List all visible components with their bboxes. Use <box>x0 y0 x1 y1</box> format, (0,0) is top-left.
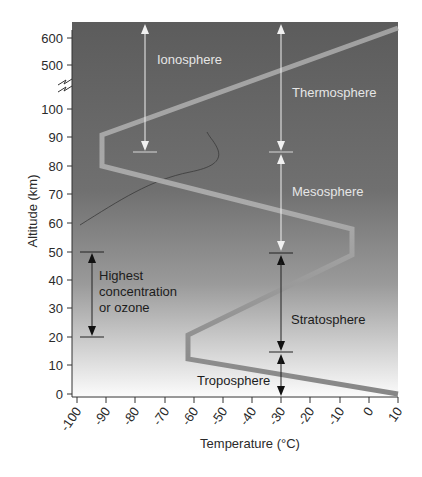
svg-text:-80: -80 <box>119 404 142 428</box>
y-axis-title: Altitude (km) <box>25 175 40 248</box>
svg-text:600: 600 <box>41 31 63 46</box>
svg-text:-70: -70 <box>149 404 172 428</box>
svg-text:-90: -90 <box>90 404 113 428</box>
svg-text:500: 500 <box>41 58 63 73</box>
svg-text:20: 20 <box>49 330 63 345</box>
y-tick-labels: 600 500 100 90 80 70 60 50 40 30 20 10 0 <box>41 31 63 402</box>
x-axis-title: Temperature (°C) <box>200 436 300 451</box>
plot-area <box>72 22 398 396</box>
label-thermosphere: Thermosphere <box>292 85 377 100</box>
svg-text:50: 50 <box>49 245 63 260</box>
axis-break-icon <box>58 79 72 92</box>
svg-text:-40: -40 <box>236 404 259 428</box>
svg-text:10: 10 <box>49 358 63 373</box>
label-ionosphere: Ionosphere <box>157 52 222 67</box>
x-axis-ticks <box>77 397 398 403</box>
svg-text:-20: -20 <box>294 404 317 428</box>
y-axis-ticks <box>67 38 72 394</box>
svg-text:80: 80 <box>49 159 63 174</box>
svg-text:100: 100 <box>41 102 63 117</box>
svg-text:30: 30 <box>49 301 63 316</box>
svg-text:40: 40 <box>49 273 63 288</box>
x-tick-labels: -100 -90 -80 -70 -60 -50 -40 -30 -20 -10… <box>57 404 405 434</box>
svg-text:or ozone: or ozone <box>99 300 150 315</box>
atmosphere-temperature-chart: 600 500 100 90 80 70 60 50 40 30 20 10 0… <box>0 0 422 477</box>
svg-text:-60: -60 <box>178 404 201 428</box>
label-troposphere: Troposphere <box>197 373 270 388</box>
svg-text:-30: -30 <box>265 404 288 428</box>
svg-text:-100: -100 <box>57 404 84 434</box>
svg-text:90: 90 <box>49 130 63 145</box>
svg-text:0: 0 <box>56 387 63 402</box>
label-mesosphere: Mesosphere <box>292 184 364 199</box>
label-stratosphere: Stratosphere <box>291 312 365 327</box>
svg-text:Highest: Highest <box>99 268 143 283</box>
svg-text:-50: -50 <box>207 404 230 428</box>
svg-text:70: 70 <box>49 187 63 202</box>
svg-text:0: 0 <box>360 404 376 419</box>
svg-text:60: 60 <box>49 216 63 231</box>
svg-text:concentration: concentration <box>99 284 177 299</box>
svg-text:-10: -10 <box>324 404 347 428</box>
svg-text:10: 10 <box>385 404 406 424</box>
